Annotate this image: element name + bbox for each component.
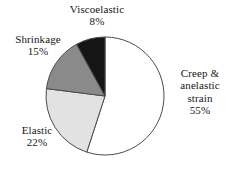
pie-chart-figure: Viscoelastic 8% Shrinkage 15% Elastic 22…: [0, 0, 235, 181]
pie-label-creep-name-line2: anelastic: [167, 79, 233, 91]
pie-label-creep: Creep & anelastic strain 55%: [167, 67, 233, 116]
pie-label-elastic-value: 22%: [2, 136, 72, 148]
pie-label-viscoelastic-name: Viscoelastic: [52, 3, 142, 15]
pie-label-viscoelastic: Viscoelastic 8%: [52, 3, 142, 28]
pie-label-viscoelastic-value: 8%: [52, 15, 142, 27]
pie-label-shrinkage: Shrinkage 15%: [2, 33, 74, 58]
pie-label-creep-value: 55%: [167, 104, 233, 116]
pie-label-creep-name-line1: Creep &: [167, 67, 233, 79]
pie-label-elastic-name: Elastic: [2, 124, 72, 136]
pie-label-elastic: Elastic 22%: [2, 124, 72, 149]
pie-label-shrinkage-value: 15%: [2, 45, 74, 57]
pie-label-creep-name-line3: strain: [167, 92, 233, 104]
pie-label-shrinkage-name: Shrinkage: [2, 33, 74, 45]
